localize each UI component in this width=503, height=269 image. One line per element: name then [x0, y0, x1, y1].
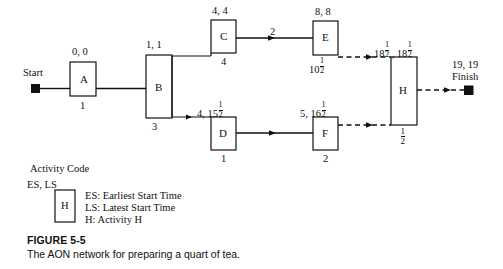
node-e-es-ls: 8, 8	[315, 7, 331, 18]
node-b-duration: 3	[152, 122, 157, 133]
network-diagram-canvas	[0, 0, 503, 269]
node-c-letter: C	[220, 31, 227, 42]
node-b-es-ls: 1, 1	[146, 40, 162, 51]
node-d-letter: D	[219, 128, 227, 139]
node-f-es-ls-fraction: 12	[322, 101, 326, 119]
node-f-letter: F	[322, 128, 328, 139]
node-h-es-fraction: 12	[385, 41, 389, 59]
node-f-es-ls-whole: 5, 16	[300, 108, 321, 119]
edge-c-to-e-label: 2	[270, 27, 275, 38]
edge-e-to-h-arrowhead	[366, 54, 373, 60]
node-e-duration-fraction: 12	[320, 57, 324, 75]
node-d-duration: 1	[221, 154, 226, 165]
figure-caption-title: FIGURE 5-5	[27, 235, 86, 246]
node-h-es-ls: 1812,1812	[374, 42, 412, 60]
node-h-ls-whole: 18	[397, 48, 408, 59]
node-h-ls-fraction: 12	[408, 41, 412, 59]
legend-box-letter: H	[61, 201, 69, 212]
edge-f-to-h-arrowhead	[366, 122, 373, 128]
node-f-es-ls: 5, 1612	[300, 102, 326, 120]
legend-line-h: H: Activity H	[85, 215, 142, 226]
node-h-duration: 12	[400, 128, 405, 147]
node-c-duration: 4	[221, 57, 226, 68]
finish-node-marker	[464, 86, 474, 96]
edge-d-to-f-arrowhead	[269, 130, 276, 136]
node-h-duration-fraction: 12	[401, 127, 406, 146]
node-a-es-ls: 0, 0	[72, 47, 88, 58]
node-h-es-whole: 18	[374, 48, 385, 59]
figure-caption-text: The AON network for preparing a quart of…	[27, 249, 240, 260]
legend-es-ls-header: ES, LS	[27, 180, 57, 191]
edge-b-to-d-arrowhead	[186, 114, 192, 119]
node-d-es-ls-whole: 4, 15	[197, 108, 218, 119]
node-a-duration: 1	[80, 101, 85, 112]
legend-line-ls: LS: Latest Start Time	[85, 203, 175, 214]
node-d-es-ls-fraction: 12	[219, 101, 223, 119]
start-label: Start	[23, 68, 43, 79]
node-e-duration-whole: 10	[309, 64, 320, 75]
node-b-letter: B	[155, 82, 162, 93]
finish-label: Finish	[452, 72, 478, 83]
node-e-duration: 1012	[309, 58, 324, 76]
node-c-es-ls: 4, 4	[212, 6, 228, 17]
node-f-duration: 2	[323, 154, 328, 165]
node-d-es-ls: 4, 1512	[197, 102, 223, 120]
figure-aon-network: Start 0, 0 A 1 1, 1 B 3 4, 4 C 4 2 8, 8 …	[0, 0, 503, 269]
start-node-marker	[31, 84, 40, 93]
node-e-letter: E	[322, 32, 329, 43]
node-a-letter: A	[80, 74, 88, 85]
node-h-letter: H	[399, 85, 407, 96]
finish-es-ls: 19, 19	[452, 60, 478, 71]
edge-h-to-finish-arrowhead	[444, 87, 451, 93]
legend-title: Activity Code	[30, 164, 89, 175]
legend-line-es: ES: Earliest Start Time	[85, 191, 182, 202]
node-h-es-ls-separator: ,	[392, 48, 395, 59]
